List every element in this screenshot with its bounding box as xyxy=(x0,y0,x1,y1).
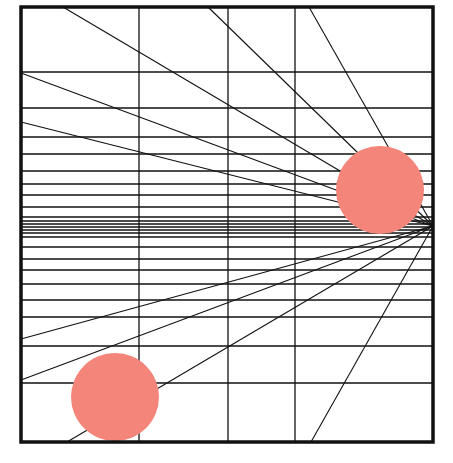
converging-ray xyxy=(21,226,433,380)
circle-right xyxy=(336,146,424,234)
circle-lower-left xyxy=(71,353,159,441)
perspective-grid-diagram xyxy=(0,0,453,463)
circles xyxy=(71,146,424,441)
converging-ray xyxy=(21,226,433,339)
